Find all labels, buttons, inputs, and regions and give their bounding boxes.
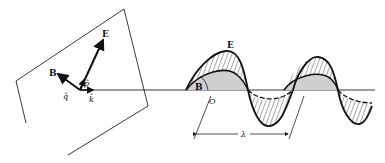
label-B-vector: B bbox=[49, 68, 57, 78]
label-B-wave: B bbox=[195, 82, 203, 92]
vector-B bbox=[58, 74, 80, 90]
label-E-vector: E bbox=[102, 29, 109, 39]
label-E-wave: E bbox=[227, 40, 234, 50]
wavefront-plane bbox=[16, 9, 148, 155]
label-q-hat: q̂ bbox=[63, 92, 68, 101]
label-origin: O bbox=[209, 97, 216, 106]
em-wave-diagram: E B p̂ q̂ k̂ E B O λ bbox=[0, 0, 385, 163]
label-wavelength: λ bbox=[240, 130, 246, 139]
label-k-hat: k̂ bbox=[89, 93, 94, 104]
label-p-hat: p̂ bbox=[84, 79, 89, 88]
